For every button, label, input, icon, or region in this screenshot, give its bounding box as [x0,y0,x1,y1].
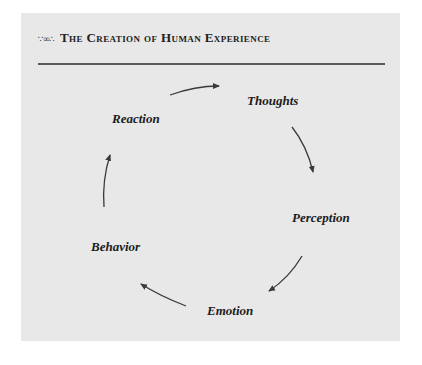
node-behavior: Behavior [91,239,140,255]
arrow-behavior-to-reaction [104,155,110,207]
node-perception: Perception [292,210,350,226]
arrow-thoughts-to-perception [292,127,313,172]
arrow-reaction-to-thoughts [170,86,219,95]
node-thoughts: Thoughts [247,93,298,109]
node-reaction: Reaction [112,111,160,127]
node-emotion: Emotion [207,303,253,319]
arrow-emotion-to-behavior [141,284,186,306]
arrow-perception-to-emotion [269,256,302,291]
